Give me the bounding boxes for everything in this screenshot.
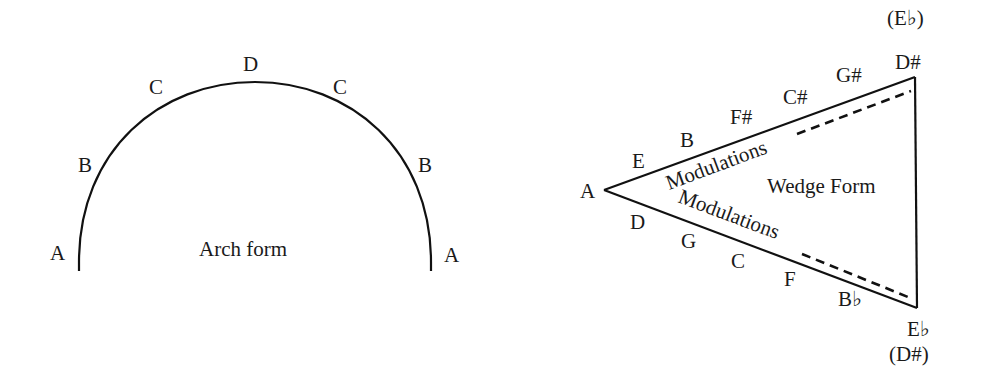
arch-form-title: Arch form: [199, 237, 287, 261]
wedge-form-title: Wedge Form: [767, 174, 876, 198]
wedge-bottom-vertex-alt: (D#): [889, 342, 929, 366]
musical-form-diagram: A B C D C B A Arch form A (E♭) D# E♭ (D#…: [0, 0, 985, 387]
wedge-lower-edge: [604, 190, 917, 308]
arch-label-left-b: B: [78, 153, 92, 177]
arch-form: A B C D C B A Arch form: [50, 52, 460, 271]
wedge-top-vertex-label: D#: [895, 50, 921, 74]
wedge-upper-key-4: C#: [783, 85, 808, 109]
arch-label-left-a: A: [50, 241, 66, 265]
wedge-vertex-a: A: [580, 179, 596, 203]
wedge-top-vertex-alt: (E♭): [887, 6, 924, 30]
wedge-upper-key-3: F#: [730, 105, 753, 129]
arch-label-top-d: D: [243, 52, 258, 76]
wedge-upper-key-1: E: [632, 149, 645, 173]
arch-label-right-b: B: [418, 153, 432, 177]
wedge-right-edge: [915, 77, 917, 308]
wedge-upper-key-5: G#: [836, 63, 862, 87]
arch-label-right-a: A: [444, 243, 460, 267]
arch-label-right-c: C: [333, 75, 347, 99]
wedge-bottom-vertex-label: E♭: [907, 317, 930, 341]
wedge-lower-key-3: C: [731, 249, 745, 273]
wedge-lower-key-2: G: [681, 229, 696, 253]
wedge-upper-key-2: B: [680, 128, 694, 152]
arch-label-left-c: C: [149, 75, 163, 99]
wedge-upper-caption: Modulations: [662, 135, 770, 195]
wedge-form: A (E♭) D# E♭ (D#) E B F# C# G# Modulatio…: [580, 6, 930, 366]
wedge-lower-key-1: D: [630, 210, 645, 234]
wedge-lower-key-4: F: [784, 267, 796, 291]
wedge-lower-key-5: B♭: [838, 287, 862, 311]
